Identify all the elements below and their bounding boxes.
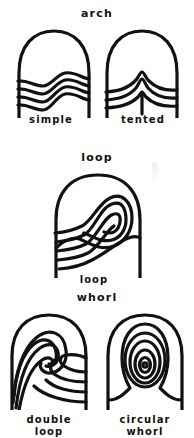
caption-double-loop-whorl: double loop: [2, 414, 96, 437]
caption-circular-whorl: circular whorl: [98, 414, 192, 437]
group-title-whorl: whorl: [0, 292, 194, 304]
scan-smudge-artifact: [152, 162, 158, 184]
fingerprint-loop: [52, 170, 144, 278]
fingerprint-circular-whorl: [104, 310, 186, 410]
fingerprint-double-loop-whorl: [8, 310, 90, 410]
fingerprint-tented-arch: [104, 26, 180, 118]
caption-loop: loop: [42, 274, 146, 286]
fingerprint-pattern-figure: arch: [0, 0, 194, 438]
fingerprint-simple-arch: [16, 26, 92, 118]
pattern-group-loop: loop loop: [0, 152, 194, 300]
caption-simple-arch: simple: [10, 114, 92, 126]
pattern-group-whorl: whorl: [0, 292, 194, 438]
group-title-loop: loop: [0, 152, 194, 164]
pattern-group-arch: arch: [0, 8, 194, 154]
group-title-arch: arch: [0, 8, 194, 20]
caption-tented-arch: tented: [100, 114, 186, 126]
